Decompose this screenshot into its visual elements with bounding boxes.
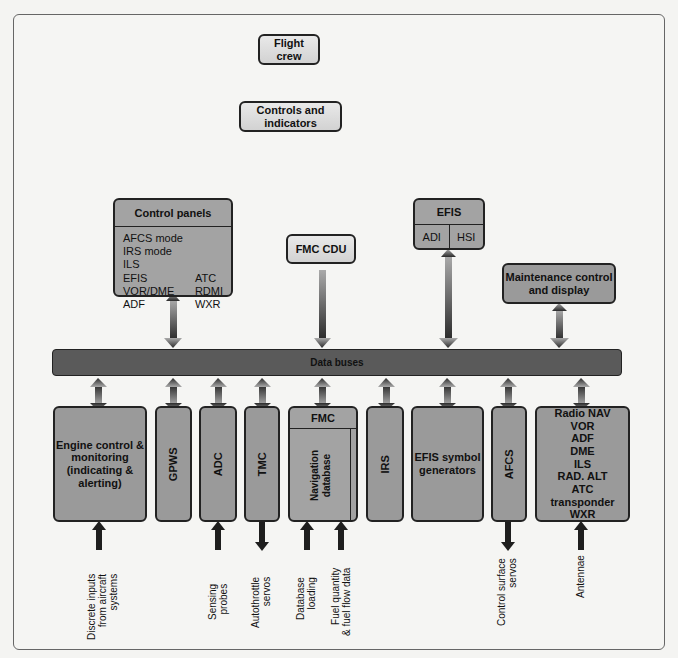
fuel-quantity-label: Fuel quantity & fuel flow data [330, 568, 352, 636]
control-surface-servos-label: Control surface servos [496, 558, 518, 626]
flight-crew-box: Flight crew [258, 34, 320, 65]
gpws-label: GPWS [167, 447, 180, 481]
radio-nav-item: VOR [571, 420, 595, 433]
database-loading-label: Database loading [295, 577, 317, 620]
navigation-database-label: Navigation database [309, 445, 332, 505]
control-panels-title: Control panels [115, 200, 231, 227]
control-panel-item [195, 258, 223, 271]
maintenance-label: Maintenance control and display [504, 271, 614, 296]
control-panel-item: RDMI [195, 285, 223, 298]
control-panel-item: ATC [195, 272, 223, 285]
discrete-inputs-label: Discrete inputs from aircraft systems [86, 574, 119, 640]
fmc-box: FMC Navigation database Operational prog… [288, 406, 358, 522]
efis-title: EFIS [415, 200, 483, 225]
fmc-title: FMC [290, 408, 356, 429]
radio-nav-item: ATC [572, 483, 594, 496]
control-panel-item: AFCS mode [123, 232, 195, 245]
control-panel-item [195, 232, 223, 245]
radio-nav-item: ADF [571, 432, 594, 445]
flight-crew-label: Flight crew [260, 37, 318, 62]
control-panels-list: AFCS modeIRS modeILSEFISATCVOR/DMERDMIAD… [115, 227, 231, 316]
data-buses-label: Data buses [310, 357, 363, 368]
radio-nav-item: RAD. ALT [557, 470, 607, 483]
hsi-label: HSI [450, 225, 484, 249]
gpws-box: GPWS [155, 406, 192, 522]
engine-control-label: Engine control & monitoring (indicating … [55, 439, 145, 490]
adc-box: ADC [199, 406, 237, 522]
control-panel-item: WXR [195, 298, 223, 311]
sensing-probes-label: Sensing probes [207, 584, 229, 620]
radio-nav-item: transponder [550, 496, 614, 509]
control-panel-item: EFIS [123, 272, 195, 285]
control-panel-item: ILS [123, 258, 195, 271]
data-buses-bar: Data buses [52, 349, 622, 376]
fmc-cdu-label: FMC CDU [296, 243, 347, 256]
irs-label: IRS [379, 455, 392, 473]
radio-nav-box: Radio NAVVORADFDMEILSRAD. ALTATCtranspon… [535, 406, 630, 522]
radio-nav-item: WXR [570, 508, 596, 521]
control-panel-item: IRS mode [123, 245, 195, 258]
radio-nav-item: DME [570, 445, 594, 458]
controls-indicators-box: Controls and indicators [239, 101, 342, 132]
efis-box: EFIS ADI HSI [413, 198, 485, 250]
radio-nav-item: ILS [574, 458, 591, 471]
maintenance-box: Maintenance control and display [502, 263, 616, 304]
controls-indicators-label: Controls and indicators [241, 104, 340, 129]
control-panel-item [195, 245, 223, 258]
irs-box: IRS [366, 406, 404, 522]
navigation-database-cell: Navigation database [290, 429, 351, 521]
engine-control-box: Engine control & monitoring (indicating … [53, 406, 147, 522]
antennae-label: Antennae [575, 555, 586, 598]
fmc-cdu-box: FMC CDU [286, 234, 356, 264]
efis-symbol-generators-box: EFIS symbol generators [411, 406, 484, 522]
tmc-box: TMC [244, 406, 280, 522]
control-panel-item: ADF [123, 298, 195, 311]
afcs-label: AFCS [503, 449, 516, 479]
adi-label: ADI [415, 225, 450, 249]
radio-nav-item: Radio NAV [554, 407, 610, 420]
autothrottle-servos-label: Autothrottle servos [250, 577, 272, 628]
control-panels-box: Control panels AFCS modeIRS modeILSEFISA… [113, 198, 233, 297]
efis-symbol-generators-label: EFIS symbol generators [413, 451, 482, 476]
tmc-label: TMC [256, 452, 269, 476]
control-panel-item: VOR/DME [123, 285, 195, 298]
adc-label: ADC [212, 452, 225, 476]
afcs-box: AFCS [491, 406, 527, 522]
